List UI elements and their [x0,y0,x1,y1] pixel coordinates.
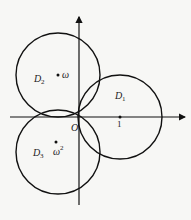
omega-label: ω [62,69,69,80]
d1-sub: 1 [122,95,126,103]
origin-label: O [71,122,78,133]
omega-squared-label: ω [53,146,60,157]
omega-squared-sup: 2 [60,144,64,152]
unit-label: 1 [117,119,122,129]
d3-sub: 3 [40,152,44,160]
point-omega-squared [55,141,58,144]
complex-plane-diagram: O 1 D 1 D 2 ω D 3 ω 2 [0,0,191,220]
d2-sub: 2 [41,78,45,86]
point-omega [57,74,60,77]
